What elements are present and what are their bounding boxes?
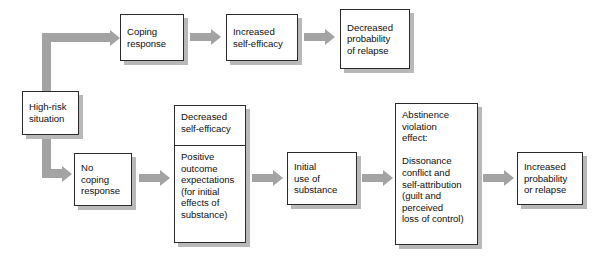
node-line: Decreased <box>347 22 403 34</box>
node-line: loss of control) <box>402 213 471 225</box>
node-line: expectations <box>181 174 239 186</box>
elbow-horizontal-segment <box>42 169 62 178</box>
arrowhead-right-icon <box>160 170 170 186</box>
node-initial-use-of-substance: Initial use of substance <box>287 152 357 205</box>
node-no-coping-response: No coping response <box>74 153 132 206</box>
node-line: Dissonance <box>402 155 471 167</box>
arrowhead-right-icon <box>325 29 335 45</box>
node-line: Increased <box>524 161 576 173</box>
node-line: effect: <box>402 132 471 144</box>
node-line: or relapse <box>524 184 576 196</box>
node-line: Initial <box>294 161 350 173</box>
edge-abstinence-violation-effect-to-increased-probability <box>483 170 514 186</box>
node-line: (for initial <box>181 186 239 198</box>
elbow-vertical-segment <box>42 37 51 91</box>
edge-no-coping-response-to-expectations <box>139 170 170 186</box>
node-line: Positive <box>181 151 239 163</box>
arrowhead-right-icon <box>273 170 283 186</box>
node-line: self-efficacy <box>233 38 291 50</box>
node-line: substance <box>294 184 350 196</box>
arrowhead-right-icon <box>504 170 514 186</box>
node-line: response <box>81 185 125 197</box>
node-line: outcome <box>181 163 239 175</box>
node-expectations-split-box: Decreased self-efficacy Positive outcome… <box>174 105 246 243</box>
node-line: violation <box>402 121 471 133</box>
node-line: of relapse <box>347 45 403 57</box>
arrowhead-right-icon <box>110 30 120 46</box>
node-line: Abstinence <box>402 109 471 121</box>
node-line: self-attribution <box>402 179 471 191</box>
node-abstinence-violation-effect: Abstinence violation effect: Dissonance … <box>395 103 478 245</box>
node-line: Decreased <box>181 111 239 123</box>
node-line: coping <box>81 174 125 186</box>
arrowhead-right-icon <box>62 166 72 182</box>
node-line: Increased <box>233 26 291 38</box>
node-high-risk-situation: High-risk situation <box>22 91 79 135</box>
node-line: self-efficacy <box>181 123 239 135</box>
arrow-shaft <box>252 174 273 182</box>
node-line: situation <box>29 113 72 125</box>
node-positive-outcome-expectations: Positive outcome expectations (for initi… <box>175 146 245 226</box>
node-increased-probability-or-relapse: Increased probability or relapse <box>517 152 583 205</box>
arrow-shaft <box>483 174 504 182</box>
node-line: substance) <box>181 209 239 221</box>
arrow-shaft <box>362 174 383 182</box>
edge-expectations-to-initial-use <box>252 170 283 186</box>
node-line: Coping <box>127 26 177 38</box>
arrow-shaft <box>304 33 325 41</box>
arrow-shaft <box>190 33 211 41</box>
arrowhead-right-icon <box>211 29 221 45</box>
elbow-horizontal-segment <box>42 33 110 42</box>
node-line: probability <box>347 33 403 45</box>
node-line: perceived <box>402 202 471 214</box>
arrow-shaft <box>139 174 160 182</box>
edge-coping-response-to-increased-self-efficacy <box>190 29 221 45</box>
node-increased-self-efficacy: Increased self-efficacy <box>226 14 298 61</box>
node-line: conflict and <box>402 167 471 179</box>
node-line: No <box>81 162 125 174</box>
node-decreased-probability-of-relapse: Decreased probability of relapse <box>340 9 410 69</box>
node-decreased-self-efficacy: Decreased self-efficacy <box>175 106 245 146</box>
node-line: (guilt and <box>402 190 471 202</box>
edge-initial-use-to-abstinence-violation-effect <box>362 170 393 186</box>
node-coping-response: Coping response <box>120 14 184 61</box>
node-line: effects of <box>181 197 239 209</box>
node-line: response <box>127 38 177 50</box>
edge-increased-self-efficacy-to-decreased-probability <box>304 29 335 45</box>
relapse-flowchart-diagram: Coping response Increased self-efficacy … <box>0 0 601 262</box>
arrowhead-right-icon <box>383 170 393 186</box>
node-line: High-risk <box>29 101 72 113</box>
node-spacer <box>402 144 471 156</box>
edge-high-risk-to-coping-response <box>42 33 120 91</box>
node-line: use of <box>294 173 350 185</box>
node-line: probability <box>524 173 576 185</box>
